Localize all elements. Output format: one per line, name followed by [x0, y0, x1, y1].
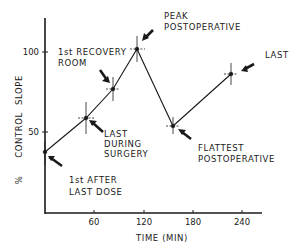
svg-text:SLOPE: SLOPE: [14, 75, 24, 105]
annotation-room: ROOM: [58, 58, 87, 68]
y-axis-label: SLOPE CONTROL %: [14, 75, 24, 184]
x-axis-label: TIME (MIN): [135, 233, 188, 243]
y-tick-label-50: 50: [28, 127, 39, 137]
annotation-flattest: FLATTEST: [198, 143, 244, 153]
x-tick-label-240: 240: [234, 217, 250, 227]
annotation-during: DURING: [104, 139, 142, 149]
point-last-during-surgery: [78, 102, 94, 134]
point-1st-after-last-dose: [43, 141, 47, 165]
svg-text:%: %: [14, 176, 24, 185]
y-tick-label-100: 100: [23, 47, 39, 57]
annotation-last-point: LAST: [265, 50, 289, 60]
annotation-1st-after: 1st AFTER: [69, 175, 117, 185]
annotation-postoperative-flattest: POSTOPERATIVE: [198, 154, 275, 164]
point-flattest-postoperative: [166, 117, 180, 134]
chart: 100 50 60 120 180 240 TIME (MIN) SLOPE C…: [0, 0, 299, 247]
annotations: 1st AFTER LAST DOSE LAST DURING SURGERY …: [58, 11, 289, 197]
annotation-postoperative-peak: POSTOPERATIVE: [164, 22, 241, 32]
x-tick-label-120: 120: [136, 217, 152, 227]
annotation-peak: PEAK: [164, 11, 188, 21]
x-tick-label-60: 60: [89, 217, 100, 227]
annotation-surgery: SURGERY: [104, 149, 148, 159]
x-tick-label-180: 180: [185, 217, 201, 227]
annotation-last-dose: LAST DOSE: [69, 187, 122, 197]
point-last: [224, 63, 238, 85]
svg-text:CONTROL: CONTROL: [14, 112, 24, 158]
annotation-last: LAST: [104, 129, 128, 139]
annotation-1st-recovery: 1st RECOVERY: [58, 47, 127, 57]
